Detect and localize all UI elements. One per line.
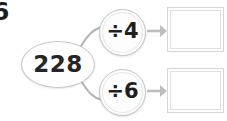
arrow-to-answer-2 — [147, 85, 167, 97]
answer-box-2[interactable] — [167, 68, 224, 113]
operation-node-divide-by-4: ÷4 — [99, 9, 146, 56]
answer-box-1[interactable] — [167, 7, 224, 52]
operation-node-divide-by-6: ÷6 — [99, 69, 146, 116]
arrow-to-answer-1 — [147, 25, 167, 37]
operation-label-divide-by-4: ÷4 — [106, 21, 138, 44]
operation-label-divide-by-6: ÷6 — [106, 81, 138, 104]
start-value: 228 — [33, 53, 83, 77]
start-value-node: 228 — [21, 41, 95, 88]
function-machine-worksheet: 6 228 ÷4 ÷6 — [0, 0, 227, 121]
answer-value-1[interactable] — [170, 10, 221, 49]
answer-value-2[interactable] — [170, 71, 221, 110]
